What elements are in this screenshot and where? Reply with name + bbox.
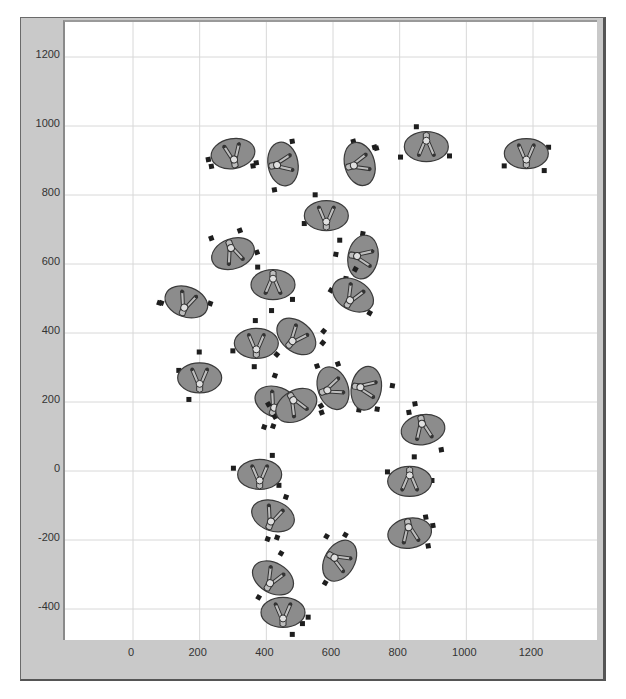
y-tick-label: 800 xyxy=(22,186,60,198)
x-tick-label: 0 xyxy=(106,646,156,658)
x-tick-label: 800 xyxy=(373,646,423,658)
person-marker xyxy=(398,124,452,161)
person-marker xyxy=(385,454,434,496)
person-marker xyxy=(347,364,397,418)
y-tick-label: 400 xyxy=(22,324,60,336)
y-tick-label: 0 xyxy=(22,462,60,474)
person-marker xyxy=(385,513,439,555)
person-marker xyxy=(230,318,278,369)
plot-area xyxy=(63,20,597,640)
y-tick-label: 1200 xyxy=(22,48,60,60)
scatter-plot xyxy=(65,22,597,640)
person-marker xyxy=(502,139,551,173)
person-marker xyxy=(251,138,303,195)
x-tick-label: 1000 xyxy=(439,646,489,658)
y-tick-label: 200 xyxy=(22,393,60,405)
person-marker xyxy=(325,261,389,321)
person-marker xyxy=(396,397,449,459)
person-marker xyxy=(243,485,302,548)
person-marker xyxy=(251,265,295,313)
person-marker xyxy=(176,350,221,402)
person-marker xyxy=(231,453,282,490)
person-marker xyxy=(155,278,215,324)
x-tick-label: 400 xyxy=(239,646,289,658)
person-marker xyxy=(338,133,387,189)
person-marker xyxy=(203,135,258,176)
x-tick-label: 200 xyxy=(173,646,223,658)
y-tick-label: -200 xyxy=(22,531,60,543)
person-marker xyxy=(303,524,367,594)
x-tick-label: 600 xyxy=(306,646,356,658)
y-tick-label: 1000 xyxy=(22,117,60,129)
y-tick-label: -400 xyxy=(22,600,60,612)
person-marker xyxy=(302,192,349,242)
x-tick-label: 1200 xyxy=(506,646,556,658)
y-tick-label: 600 xyxy=(22,255,60,267)
person-marker xyxy=(261,597,311,636)
person-marker xyxy=(329,227,382,286)
person-marker xyxy=(204,222,262,275)
